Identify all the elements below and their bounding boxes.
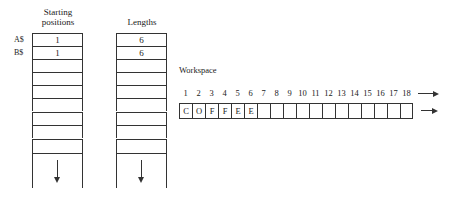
workspace-cell	[374, 103, 387, 119]
length-cell: 6	[116, 46, 167, 59]
row-label-b: B$	[14, 47, 23, 59]
workspace-index: 8	[270, 88, 283, 98]
workspace-index: 18	[400, 88, 413, 98]
workspace-cell: C	[179, 103, 192, 119]
length-cell	[116, 125, 167, 138]
lengths-right-extension	[166, 152, 167, 188]
length-cell	[116, 139, 167, 154]
length-cell	[116, 98, 167, 111]
workspace-cell: F	[205, 103, 218, 119]
workspace-index: 16	[374, 88, 387, 98]
workspace-index: 10	[296, 88, 309, 98]
workspace-index: 3	[205, 88, 218, 98]
length-cell	[116, 59, 167, 72]
start-pos-cell: 1	[32, 33, 83, 46]
start-pos-right-extension	[82, 152, 83, 188]
start-pos-cell	[32, 112, 83, 125]
starting-positions-header-line1: Starting	[30, 7, 86, 17]
workspace-index: 11	[309, 88, 322, 98]
lengths-down-arrow-icon	[141, 160, 142, 178]
start-pos-cell	[32, 85, 83, 98]
workspace-index: 7	[257, 88, 270, 98]
workspace-cell	[283, 103, 296, 119]
workspace-index: 13	[335, 88, 348, 98]
workspace-continues-right-arrow-icon	[421, 110, 433, 111]
workspace-label: Workspace	[179, 65, 217, 75]
workspace-index: 14	[348, 88, 361, 98]
workspace-cell: E	[244, 103, 257, 119]
length-cell	[116, 112, 167, 125]
starting-positions-header: Starting positions	[30, 7, 86, 27]
workspace-cell: E	[231, 103, 244, 119]
workspace-index: 9	[283, 88, 296, 98]
start-pos-cell	[32, 72, 83, 85]
start-pos-cell	[32, 125, 83, 138]
workspace-cell	[387, 103, 400, 119]
workspace-cell	[322, 103, 335, 119]
length-cell: 6	[116, 33, 167, 46]
workspace-index: 2	[192, 88, 205, 98]
lengths-left-extension	[116, 152, 117, 188]
length-cell	[116, 72, 167, 85]
index-continues-right-arrow-icon	[418, 93, 434, 94]
workspace-cell: F	[218, 103, 231, 119]
starting-positions-header-line2: positions	[30, 17, 86, 27]
start-pos-left-extension	[32, 152, 33, 188]
start-pos-cell	[32, 59, 83, 72]
workspace-index: 5	[231, 88, 244, 98]
workspace-index: 17	[387, 88, 400, 98]
row-label-a: A$	[14, 34, 24, 46]
start-pos-cell	[32, 98, 83, 111]
start-pos-down-arrow-icon	[57, 160, 58, 178]
workspace-index: 12	[322, 88, 335, 98]
workspace-index: 15	[361, 88, 374, 98]
workspace-index: 4	[218, 88, 231, 98]
workspace-cell	[361, 103, 374, 119]
workspace-cell	[335, 103, 348, 119]
workspace-cell	[257, 103, 270, 119]
workspace-cell	[296, 103, 309, 119]
workspace-index: 1	[179, 88, 192, 98]
workspace-cell	[270, 103, 283, 119]
workspace-cell	[400, 103, 413, 119]
workspace-index: 6	[244, 88, 257, 98]
length-cell	[116, 85, 167, 98]
workspace-cell: O	[192, 103, 205, 119]
lengths-header: Lengths	[114, 17, 170, 27]
workspace-cell	[309, 103, 322, 119]
start-pos-cell: 1	[32, 46, 83, 59]
workspace-cell	[348, 103, 361, 119]
start-pos-cell	[32, 139, 83, 154]
